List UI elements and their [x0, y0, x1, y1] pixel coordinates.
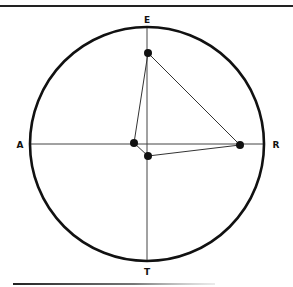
label-top-e: E	[144, 15, 150, 25]
quadrant-circle-diagram: E T A R	[0, 0, 293, 287]
point-p2	[130, 139, 138, 147]
point-p1	[144, 49, 152, 57]
edge-p1-p2	[134, 53, 148, 143]
edge-p3-p4	[148, 145, 240, 156]
edge-p1-p4	[148, 53, 240, 145]
polygon-edges	[134, 53, 240, 156]
point-p4	[236, 141, 244, 149]
bottom-rule	[13, 283, 215, 285]
label-left-a: A	[17, 140, 24, 150]
label-right-r: R	[273, 140, 280, 150]
point-p3	[144, 152, 152, 160]
label-bottom-t: T	[144, 267, 151, 277]
